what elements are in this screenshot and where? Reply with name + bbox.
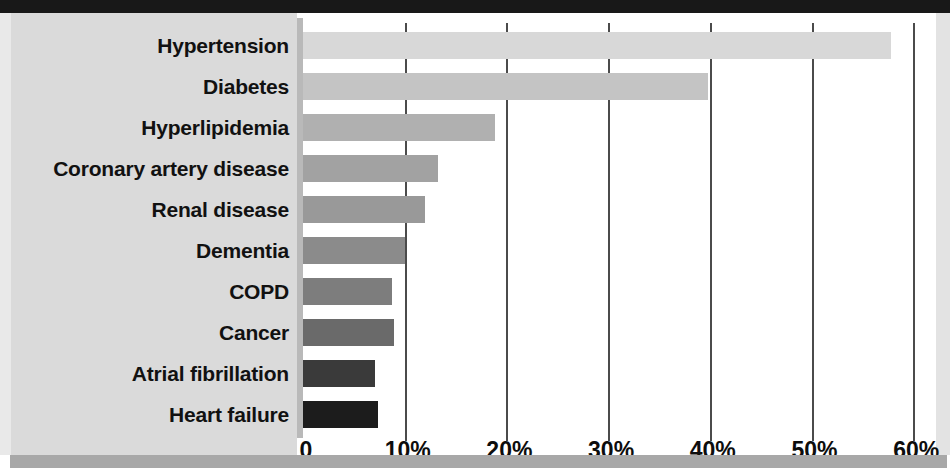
bar-row: Dementia — [11, 230, 936, 271]
page-left-edge — [0, 13, 11, 455]
bar — [303, 32, 891, 59]
page-right-edge — [936, 13, 950, 455]
bar-row: Cancer — [11, 312, 936, 353]
bar — [303, 278, 392, 305]
bar-category-label: Renal disease — [11, 189, 289, 230]
bar-category-label: Coronary artery disease — [11, 148, 289, 189]
bar — [303, 114, 495, 141]
bar-row: Heart failure — [11, 394, 936, 435]
chart-page: HypertensionDiabetesHyperlipidemiaCorona… — [0, 0, 950, 472]
bar — [303, 196, 425, 223]
bar-row: Renal disease — [11, 189, 936, 230]
bar — [303, 360, 375, 387]
bar-category-label: Heart failure — [11, 394, 289, 435]
bar-category-label: COPD — [11, 271, 289, 312]
bar — [303, 401, 378, 428]
page-top-edge-strip — [0, 0, 950, 13]
bar-row: Atrial fibrillation — [11, 353, 936, 394]
page-bottom-edge-strip — [10, 455, 947, 468]
bar-category-label: Hypertension — [11, 25, 289, 66]
bar-rows-container: HypertensionDiabetesHyperlipidemiaCorona… — [11, 25, 936, 435]
bar — [303, 73, 708, 100]
bar-category-label: Cancer — [11, 312, 289, 353]
bar-category-label: Hyperlipidemia — [11, 107, 289, 148]
bar-row: Hypertension — [11, 25, 936, 66]
bar-category-label: Dementia — [11, 230, 289, 271]
bar-row: Hyperlipidemia — [11, 107, 936, 148]
bar-category-label: Diabetes — [11, 66, 289, 107]
bar — [303, 155, 438, 182]
bar-row: Coronary artery disease — [11, 148, 936, 189]
bar — [303, 237, 405, 264]
horizontal-bar-chart: HypertensionDiabetesHyperlipidemiaCorona… — [11, 13, 936, 455]
bar-category-label: Atrial fibrillation — [11, 353, 289, 394]
bar-row: COPD — [11, 271, 936, 312]
bar-row: Diabetes — [11, 66, 936, 107]
bar — [303, 319, 394, 346]
